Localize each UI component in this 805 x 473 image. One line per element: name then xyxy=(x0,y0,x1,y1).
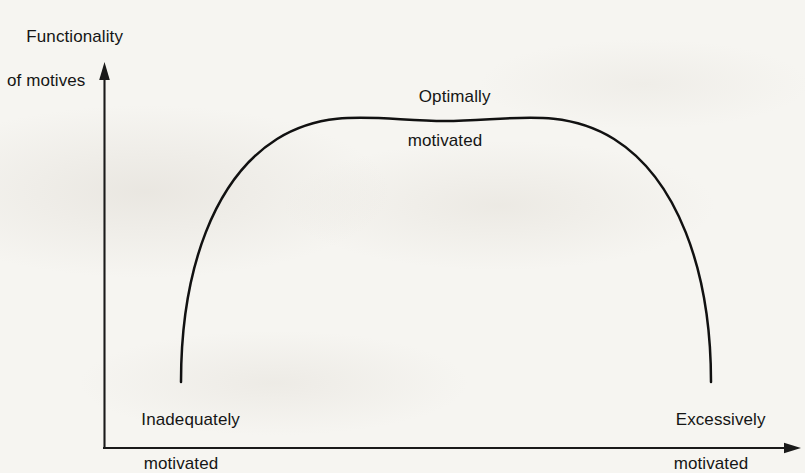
y-axis-title: Functionality of motives xyxy=(7,4,123,136)
annotation-excessively-motivated-line1: Excessively xyxy=(676,410,766,429)
annotation-optimally-motivated: Optimally motivated xyxy=(399,64,490,196)
x-axis-arrowhead-icon xyxy=(784,443,801,453)
annotation-optimally-motivated-line2: motivated xyxy=(399,130,490,152)
annotation-excessively-motivated-line2: motivated xyxy=(656,453,765,473)
annotation-optimally-motivated-line1: Optimally xyxy=(419,87,491,106)
annotation-excessively-motivated: Excessively motivated xyxy=(656,387,765,473)
y-axis-title-line1: Functionality xyxy=(26,27,123,46)
annotation-inadequately-motivated: Inadequately motivated xyxy=(122,387,240,473)
y-axis-title-line2: of motives xyxy=(7,70,123,92)
annotation-inadequately-motivated-line1: Inadequately xyxy=(141,410,240,429)
annotation-inadequately-motivated-line2: motivated xyxy=(122,453,240,473)
